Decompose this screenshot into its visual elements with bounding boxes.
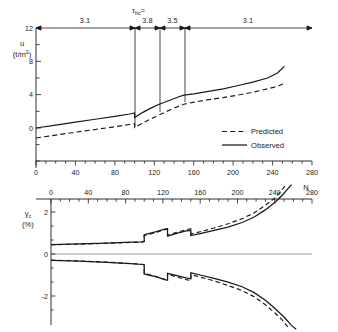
figure-container: τhc= 3.1 3.8 3.5 3.1 [0, 0, 338, 332]
upper-xtick-label-280: 280 [306, 168, 318, 177]
upper-xtick-label-200: 200 [227, 168, 239, 177]
segment-label-4: 3.1 [243, 16, 253, 25]
upper-xtick-label-0: 0 [34, 168, 38, 177]
legend-label-observed: Observed [251, 141, 284, 150]
lower-xtick-label-280: 280 [306, 188, 318, 197]
legend-label-predicted: Predicted [251, 127, 283, 136]
lower-ytick-label-0: 0 [44, 250, 48, 259]
upper-xtick-label-80: 80 [111, 168, 119, 177]
lower-ytick-label-2: 2 [44, 208, 48, 217]
tau-hc-annotation-header: τhc= [132, 6, 145, 16]
upper-xtick-label-120: 120 [148, 168, 160, 177]
upper-xtick-label-240: 240 [267, 168, 279, 177]
scientific-figure: τhc= 3.1 3.8 3.5 3.1 [0, 0, 338, 332]
lower-chart: N [22, 183, 318, 329]
segment-label-3: 3.5 [167, 16, 177, 25]
upper-ytick-label-0: 0 [29, 124, 33, 133]
upper-y-axis-title-units: (t/m2) [13, 49, 32, 58]
lower-xtick-label-0: 0 [49, 188, 53, 197]
lower-y-axis-title-symbol: γc [25, 209, 32, 219]
lower-xtick-label-160: 160 [194, 188, 206, 197]
legend: Predicted Observed [222, 127, 284, 150]
lower-chart-curves [51, 185, 296, 329]
upper-xtick-label-160: 160 [188, 168, 200, 177]
upper-ytick-label-12: 12 [25, 24, 33, 33]
tau-equals: = [141, 6, 145, 15]
segment-label-1: 3.1 [80, 16, 90, 25]
series-observed-gamma-lower [51, 260, 296, 329]
upper-chart: τhc= 3.1 3.8 3.5 3.1 [13, 6, 318, 177]
lower-xtick-label-80: 80 [122, 188, 130, 197]
gamma-subscript: c [29, 213, 32, 219]
lower-ytick-label-minus2: -2 [42, 292, 48, 301]
lower-y-axis-title-units: (%) [22, 220, 34, 229]
lower-xtick-label-40: 40 [84, 188, 92, 197]
segment-label-2: 3.8 [142, 16, 152, 25]
series-predicted-gamma-lower [51, 260, 289, 328]
lower-xtick-label-200: 200 [232, 188, 244, 197]
upper-ytick-label-4: 4 [29, 90, 33, 99]
upper-xtick-label-40: 40 [71, 168, 79, 177]
upper-y-ticks [36, 28, 41, 161]
lower-xtick-label-120: 120 [157, 188, 169, 197]
upper-x-ticks [36, 161, 312, 166]
lower-xtick-label-240: 240 [269, 188, 281, 197]
upper-y-axis-title-symbol: u [20, 39, 24, 48]
